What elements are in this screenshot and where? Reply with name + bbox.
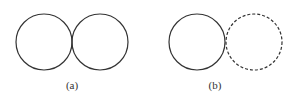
circle-b-right-dashed: [226, 14, 282, 70]
circle-a-right: [72, 14, 128, 70]
figure-a: [16, 14, 128, 70]
figure-b-label: (b): [209, 79, 222, 91]
diagram-canvas: [0, 0, 297, 103]
figure-a-label: (a): [66, 79, 78, 91]
figure-b: [169, 14, 282, 70]
circle-b-left-solid: [169, 14, 225, 70]
circle-a-left: [16, 14, 72, 70]
